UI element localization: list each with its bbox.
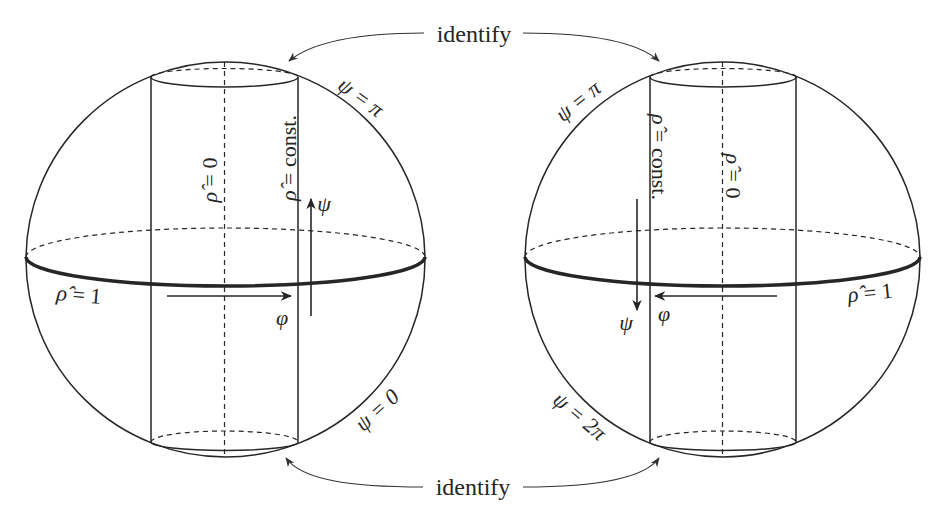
left-label-rho-const: ρ̂ = const.	[276, 115, 301, 202]
identify-bottom-group: identify	[286, 458, 659, 500]
identify-top-group: identify	[289, 21, 659, 61]
left-label-psi-zero: ψ = 0	[350, 384, 404, 436]
right-sphere: ρ̂ = const. ρ̂ = 0 ρ̂ = 1 ψ = π ψ = 2π ψ…	[525, 62, 920, 457]
identify-bottom-left-arrow	[286, 458, 423, 487]
left-label-rho-one: ρ̂ = 1	[55, 280, 103, 309]
left-label-rho-zero: ρ̂ = 0	[197, 158, 222, 204]
rho-one-value: = 1	[66, 281, 102, 309]
identify-top-right-arrow	[523, 33, 659, 61]
identify-bottom-right-arrow	[523, 458, 659, 487]
identify-bottom-label: identify	[436, 474, 511, 500]
identify-top-left-arrow	[289, 33, 424, 61]
right-label-psi-pi: ψ = π	[550, 75, 606, 127]
rho-one-value: = 1	[857, 277, 894, 305]
right-label-rho-const: ρ̂ = const.	[648, 113, 673, 200]
rho-zero-value: = 0	[197, 158, 222, 192]
left-sphere: ρ̂ = 0 ρ̂ = const. ρ̂ = 1 ψ = π ψ = 0 ψ …	[26, 62, 425, 457]
right-label-rho-one: ρ̂ = 1	[845, 277, 893, 307]
right-label-rho-zero: ρ̂ = 0	[722, 153, 747, 199]
left-phi-arrow-label: φ	[276, 305, 288, 330]
two-spheres-identification-diagram: identify ρ̂ = 0 ρ̂ = const. ρ̂ = 1 ψ = π…	[0, 0, 933, 516]
rho-zero-value: = 0	[722, 164, 747, 198]
left-sphere-outline	[26, 62, 425, 457]
left-equator-back	[26, 228, 425, 257]
left-psi-arrow-label: ψ	[317, 191, 331, 216]
rho-const-value: = const.	[276, 115, 301, 190]
right-phi-arrow-label: φ	[658, 301, 670, 326]
identify-top-label: identify	[437, 21, 512, 47]
rho-const-value: = const.	[648, 125, 673, 200]
right-psi-arrow-label: ψ	[619, 310, 633, 335]
